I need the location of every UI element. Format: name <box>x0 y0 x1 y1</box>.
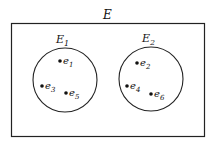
set-e2-label: E2 <box>141 32 155 47</box>
venn-diagram: E E1 e1 e3 e5 E2 e2 e4 e6 <box>0 0 213 144</box>
element-dot <box>149 92 153 96</box>
universe-label: E <box>102 8 112 22</box>
set-e2: E2 e2 e4 e6 <box>119 32 183 111</box>
svg-text:e4: e4 <box>130 80 140 94</box>
svg-text:e5: e5 <box>69 87 80 101</box>
element-dot <box>58 59 62 63</box>
universe-rectangle <box>12 24 205 137</box>
set-e1: E1 e1 e3 e5 <box>33 33 97 112</box>
set-e1-label: E1 <box>55 33 69 48</box>
element-dot <box>135 61 139 65</box>
svg-text:e6: e6 <box>154 88 165 102</box>
element-dot <box>125 84 129 88</box>
svg-text:e3: e3 <box>45 80 56 94</box>
element-dot <box>40 84 44 88</box>
element-e1: e1 <box>58 55 73 69</box>
element-dot <box>64 91 68 95</box>
element-e6: e6 <box>149 88 165 102</box>
svg-text:e1: e1 <box>63 55 73 69</box>
element-e3: e3 <box>40 80 56 94</box>
element-e4: e4 <box>125 80 140 94</box>
element-e2: e2 <box>135 57 151 71</box>
svg-text:e2: e2 <box>140 57 151 71</box>
set-e2-circle <box>119 47 183 111</box>
element-e5: e5 <box>64 87 80 101</box>
